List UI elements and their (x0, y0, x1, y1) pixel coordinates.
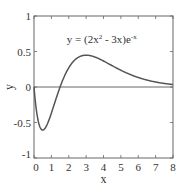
x-tick-label: 7 (153, 161, 159, 173)
x-tick-label: 3 (83, 161, 89, 173)
y-axis-label: y (2, 84, 16, 90)
chart: 012345678-1-0.500.51 y = (2x2 - 3x)e-x x… (0, 0, 184, 191)
x-tick-label: 8 (170, 161, 176, 173)
y-tick-label: 1 (26, 10, 32, 22)
y-tick-label: -0.5 (14, 117, 32, 129)
y-tick-label: 0.5 (17, 46, 31, 58)
x-tick-label: 5 (118, 161, 124, 173)
y-tick-label: -1 (22, 148, 31, 160)
x-tick-label: 6 (136, 161, 142, 173)
x-axis-label: x (101, 172, 107, 186)
equation-annotation: y = (2x2 - 3x)e-x (67, 33, 137, 46)
data-series-line (34, 55, 173, 130)
x-tick-label: 1 (49, 161, 55, 173)
x-tick-label: 2 (66, 161, 72, 173)
y-tick-label: 0 (26, 81, 32, 93)
x-tick-label: 0 (33, 161, 39, 173)
